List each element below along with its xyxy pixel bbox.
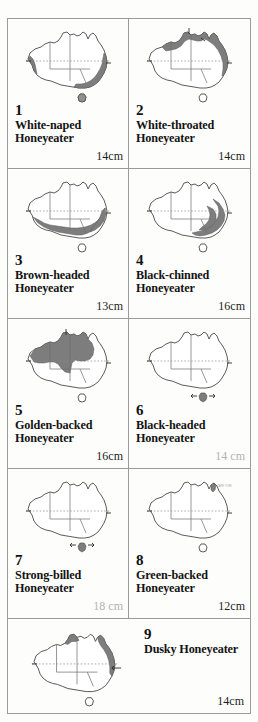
species-name: Brown-headed Honeyeater [15,269,124,296]
species-caption-6: 6 Black-headed Honeyeater [136,403,246,446]
species-number: 8 [136,553,246,568]
species-size: 14cm [217,695,244,708]
species-size: 14cm [96,150,123,163]
species-panel-7[interactable]: 7 Strong-billed Honeyeater 18 cm [8,469,129,618]
species-caption-8: 8 Green-backed Honeyeater [136,553,246,596]
species-number: 6 [136,403,246,418]
species-number: 7 [15,553,124,568]
species-caption-1: 1 White-naped Honeyeater [15,103,124,146]
grid-row: 7 Strong-billed Honeyeater 18 cm [8,469,250,619]
species-name: Dusky Honeyeater [144,643,246,656]
distribution-map-7 [14,473,124,555]
species-panel-4[interactable]: 4 Black-chinned Honeyeater 16cm [129,169,250,318]
species-panel-5[interactable]: 5 Golden-backed Honeyeater 16cm [8,319,129,468]
species-size: 13cm [96,300,123,313]
species-name: Green-backed Honeyeater [136,569,246,596]
distribution-map-2 [135,23,245,105]
species-name: Black-chinned Honeyeater [136,269,246,296]
distribution-map-grid: 1 White-naped Honeyeater 14cm [7,18,251,714]
distribution-map-6 [135,323,245,405]
species-number: 2 [136,103,246,118]
cape-york-label: CAPE YORK [217,484,232,488]
species-caption-5: 5 Golden-backed Honeyeater [15,403,124,446]
distribution-map-5 [14,323,124,405]
species-size: 16cm [218,300,245,313]
species-caption-3: 3 Brown-headed Honeyeater [15,253,124,296]
species-size: 18 cm [93,600,123,613]
species-caption-2: 2 White-throated Honeyeater [136,103,246,146]
species-panel-9[interactable]: 9 Dusky Honeyeater 14cm [8,619,250,714]
species-number: 4 [136,253,246,268]
distribution-map-4 [135,173,245,255]
species-caption-7: 7 Strong-billed Honeyeater [15,553,124,596]
species-panel-1[interactable]: 1 White-naped Honeyeater 14cm [8,19,129,168]
species-panel-8[interactable]: CAPE YORK 8 Green-backed Honeyeater 12cm [129,469,250,618]
species-panel-6[interactable]: 6 Black-headed Honeyeater 14 cm [129,319,250,468]
species-name: Strong-billed Honeyeater [15,569,124,596]
plate-sheet: 1 White-naped Honeyeater 14cm [0,0,258,722]
species-name: White-throated Honeyeater [136,119,246,146]
grid-row: 1 White-naped Honeyeater 14cm [8,19,250,169]
species-size: 12cm [218,600,245,613]
species-caption-9: 9 Dusky Honeyeater [144,627,246,656]
species-panel-2[interactable]: 2 White-throated Honeyeater 14cm [129,19,250,168]
distribution-map-3 [14,173,124,255]
distribution-map-1 [14,23,124,105]
species-number: 3 [15,253,124,268]
species-name: Black-headed Honeyeater [136,419,246,446]
species-panel-3[interactable]: 3 Brown-headed Honeyeater 13cm [8,169,129,318]
species-number: 9 [144,627,246,642]
species-caption-4: 4 Black-chinned Honeyeater [136,253,246,296]
species-size: 14 cm [215,450,245,463]
distribution-map-8: CAPE YORK [135,473,245,555]
grid-row: 3 Brown-headed Honeyeater 13cm [8,169,250,319]
species-number: 5 [15,403,124,418]
species-size: 16cm [96,450,123,463]
species-name: White-naped Honeyeater [15,119,124,146]
grid-row: 5 Golden-backed Honeyeater 16cm [8,319,250,469]
grid-row: 9 Dusky Honeyeater 14cm [8,619,250,714]
species-size: 14cm [218,150,245,163]
species-number: 1 [15,103,124,118]
distribution-map-9 [16,625,136,709]
species-name: Golden-backed Honeyeater [15,419,124,446]
